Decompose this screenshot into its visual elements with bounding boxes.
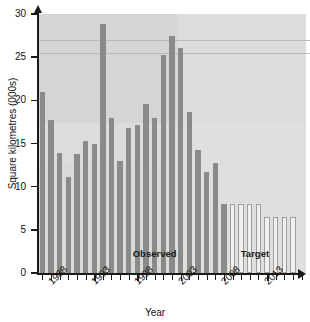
bar-observed <box>83 141 88 273</box>
x-axis-tick <box>293 275 294 280</box>
bars-layer <box>38 14 306 273</box>
bar-observed <box>57 153 62 273</box>
x-axis-tick <box>241 275 242 280</box>
bar-observed <box>126 128 131 273</box>
bar-observed <box>100 24 105 273</box>
y-axis-tick <box>31 56 37 58</box>
x-axis-tick <box>258 275 259 280</box>
x-axis-tick <box>250 275 251 280</box>
bar-observed <box>109 118 114 273</box>
y-axis-tick <box>31 13 37 15</box>
bar-observed <box>221 204 226 273</box>
x-axis-tick <box>77 275 78 280</box>
bar-observed <box>169 36 174 273</box>
x-axis-tick <box>129 275 130 280</box>
bar-target <box>238 204 243 273</box>
bar-observed <box>117 161 122 273</box>
x-axis-tick <box>284 275 285 280</box>
y-axis-tick <box>31 186 37 188</box>
x-axis-tick <box>207 275 208 280</box>
bar-chart: ObservedTarget 051015202530 198819931998… <box>0 0 310 322</box>
y-axis-tick-label: 5 <box>2 225 26 235</box>
y-axis-tick <box>31 143 37 145</box>
x-axis-tick <box>86 275 87 280</box>
y-axis-tick <box>31 100 37 102</box>
x-axis-tick <box>42 275 43 280</box>
x-axis-tick <box>215 275 216 280</box>
bar-observed <box>204 172 209 273</box>
x-axis-tick <box>120 275 121 280</box>
plot-annotation-observed: Observed <box>133 248 177 259</box>
bar-observed <box>66 177 71 273</box>
bar-target <box>256 204 261 273</box>
bar-observed <box>213 163 218 274</box>
bar-target <box>247 204 252 273</box>
y-axis-tick-label: 0 <box>2 268 26 278</box>
bar-target <box>282 217 287 273</box>
x-axis-tick <box>172 275 173 280</box>
x-axis-tick <box>155 275 156 280</box>
bar-observed <box>178 48 183 273</box>
bar-observed <box>40 92 45 273</box>
x-axis-tick <box>111 275 112 280</box>
x-axis-tick <box>302 275 303 280</box>
bar-observed <box>74 154 79 273</box>
y-axis-tick <box>31 229 37 231</box>
bar-target <box>290 217 295 273</box>
bar-target <box>230 204 235 273</box>
plot-annotation-target: Target <box>241 248 269 259</box>
bar-observed <box>48 120 53 273</box>
bar-observed <box>187 112 192 273</box>
x-axis-tick <box>198 275 199 280</box>
y-axis-tick-label: 30 <box>2 9 26 19</box>
bar-observed <box>195 150 200 273</box>
bar-observed <box>161 55 166 273</box>
y-axis-tick <box>31 272 37 274</box>
x-axis-title: Year <box>0 307 310 318</box>
x-axis-tick <box>163 275 164 280</box>
x-axis-tick <box>68 275 69 280</box>
bar-observed <box>92 144 97 273</box>
y-axis-title: Square kilometres (000s) <box>7 59 18 209</box>
y-axis-line <box>37 12 39 275</box>
bar-target <box>264 217 269 273</box>
